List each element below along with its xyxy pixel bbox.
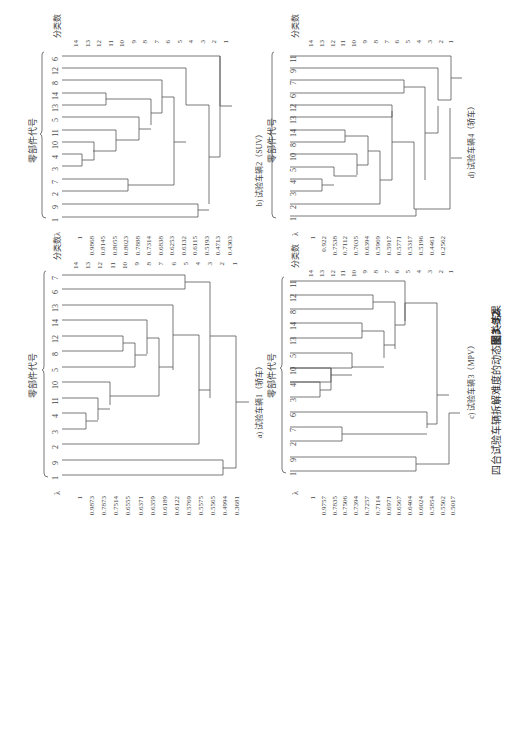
count-label: 8 [372,270,380,274]
lambda-values: 10.98680.81450.80550.80230.78880.73140.6… [76,236,234,256]
figure-caption-text: 四台试验车辆拆解难度的动态聚类结果 [490,305,502,475]
count-label: 6 [393,270,401,274]
lambda-value: 0.6189 [161,496,169,516]
leaf-label: 8 [51,81,60,85]
count-label: 12 [329,40,337,48]
lambda-value: 0.6555 [124,496,132,516]
leaf-label: 2 [289,205,298,209]
count-label: 11 [109,262,117,269]
lambda-values: 10.9220.75380.71120.70350.63940.59690.59… [309,236,447,256]
count-label: 10 [118,40,126,48]
count-label: 3 [206,262,214,266]
count-label: 8 [145,262,153,266]
lambda-value: 0.6971 [385,496,393,516]
leaf-label: 3 [289,192,298,196]
lambda-value: 0.5575 [197,496,205,516]
count-label: 8 [372,40,380,44]
lambda-value: 0.6359 [149,496,157,516]
leaf-label: 14 [289,322,298,330]
count-labels: 1413121110987654321 [72,262,239,270]
lambda-value: 0.7873 [100,496,108,516]
lambda-value: 0.6394 [363,236,371,256]
leaf-label: 2 [51,192,60,196]
lambda-value: 0.5917 [385,236,393,256]
panel-d-title: d) 试验车辆4（轿车） [466,102,476,179]
count-label: 9 [133,262,141,266]
leaf-label: 4 [289,383,298,387]
figure-caption: 图3-32 四台试验车辆拆解难度的动态聚类结果 [490,305,502,475]
panel-a-title: a) 试验车辆1（轿车） [254,362,264,438]
leaf-label: 13 [51,304,60,312]
lambda-value: 0.5502 [439,496,447,516]
lambda-value: 0.6024 [417,496,425,516]
leaf-label: 1 [289,472,298,476]
leaf-label: 2 [51,445,60,449]
lambda-value: 0.4994 [221,496,229,516]
count-label: 1 [447,40,455,44]
leaf-label: 7 [51,276,60,280]
lambda-values: 10.98730.78730.75140.65550.63710.63590.6… [76,496,241,516]
lambda-value: 0.5854 [428,496,436,516]
count-label: 4 [194,262,202,266]
leaf-label: 9 [51,461,60,465]
count-label: 2 [210,40,218,44]
lambda-value: 0.4461 [428,236,436,256]
count-label: 1 [447,270,455,274]
count-label: 13 [84,40,92,48]
lambda-value: 0.7506 [341,496,349,516]
count-label: 7 [153,40,161,44]
count-label: 6 [393,40,401,44]
dendrogram-figure: 零部件代号 6128141351110437291 14131211109876… [0,0,505,747]
leaf-label: 9 [289,458,298,462]
lambda-value: 1 [309,496,317,500]
part-code-label: 零部件代号 [266,353,277,398]
count-axis-label: 分类数 [52,14,62,38]
leaf-label: 10 [289,153,298,161]
leaf-label: 13 [51,104,60,112]
lambda-value: 0.3681 [233,496,241,516]
count-label: 3 [199,40,207,44]
count-label: 13 [318,40,326,48]
count-label: 9 [361,270,369,274]
leaf-label: 5 [289,354,298,358]
count-label: 10 [350,40,358,48]
count-label: 13 [318,270,326,278]
count-label: 7 [383,40,391,44]
panel-a: 零部件代号 7613141285101143291 14131211109876… [27,236,264,515]
leaf-label: 8 [51,352,60,356]
lambda-value: 0.8145 [99,236,107,256]
lambda-value: 1 [309,236,317,240]
count-label: 11 [107,40,115,47]
part-code-label: 零部件代号 [27,118,38,163]
leaf-label: 4 [51,414,60,418]
leaf-label: 3 [51,430,60,434]
lambda-value: 0.4713 [214,236,222,256]
lambda-value: 0.5771 [395,236,403,256]
lambda-values: 10.97570.78350.75060.73940.72570.71140.6… [309,496,457,516]
count-label: 6 [170,262,178,266]
leaf-label: 5 [51,118,60,122]
leaf-label: 6 [289,94,298,98]
leaf-label: 1 [51,476,60,480]
lambda-value: 0.5196 [417,236,425,256]
lambda-value: 0.6838 [157,236,165,256]
lambda-value: 0.6567 [395,496,403,516]
count-label: 13 [84,262,92,270]
count-label: 4 [415,40,423,44]
count-label: 4 [415,270,423,274]
panel-c-title: c) 试验车辆3（MPV） [466,341,476,419]
lambda-value: 0.5969 [374,236,382,256]
lambda-value: 0.7112 [341,236,349,255]
lambda-value: 0.6132 [180,236,188,256]
leaf-label: 11 [51,397,60,405]
leaf-label: 6 [51,290,60,294]
leaf-label: 4 [51,155,60,159]
count-label: 14 [72,40,80,48]
count-label: 14 [307,270,315,278]
count-label: 12 [96,262,104,270]
lambda-value: 0.9757 [320,496,328,516]
count-label: 10 [121,262,129,270]
count-label: 12 [329,270,337,278]
lambda-label: λ [291,232,300,236]
part-code-label: 零部件代号 [266,118,277,163]
